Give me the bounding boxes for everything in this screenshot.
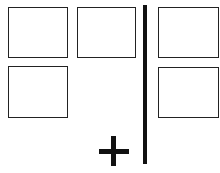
empty-box-left-top-1 [8,7,68,58]
empty-box-left-top-2 [77,7,136,58]
empty-box-left-bottom-1 [8,66,68,118]
empty-box-right-top [158,7,219,58]
empty-box-right-bottom [158,67,219,118]
plus-icon [99,136,129,166]
plus-vertical-bar [111,136,116,166]
vertical-divider-line [143,5,147,164]
